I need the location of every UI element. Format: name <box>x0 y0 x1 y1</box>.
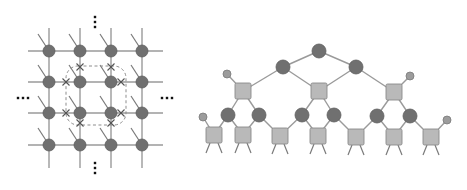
physical-leg <box>423 145 427 155</box>
physical-leg <box>398 145 402 155</box>
small-tensor-node <box>406 72 414 80</box>
circle-tensor-node <box>349 60 363 74</box>
physical-leg <box>435 145 439 155</box>
circle-tensor-node <box>252 108 266 122</box>
square-tensor-node <box>386 84 402 100</box>
square-tensor-node <box>310 128 326 144</box>
square-tensor-node <box>423 129 439 145</box>
tree-network-diagram <box>0 0 467 190</box>
circle-tensor-node <box>312 44 326 58</box>
physical-leg <box>247 143 251 153</box>
physical-leg <box>310 144 314 154</box>
physical-leg <box>272 144 276 154</box>
tree-physical-legs <box>206 143 439 155</box>
square-tensor-node <box>235 127 251 143</box>
square-tensor-node <box>206 127 222 143</box>
figure <box>0 0 467 190</box>
physical-leg <box>235 143 239 153</box>
circle-tensor-node <box>295 108 309 122</box>
physical-leg <box>218 143 222 153</box>
small-tensor-node <box>199 113 207 121</box>
small-tensor-node <box>443 116 451 124</box>
circle-tensor-node <box>370 109 384 123</box>
circle-tensor-node <box>221 108 235 122</box>
physical-leg <box>348 145 352 155</box>
physical-leg <box>322 144 326 154</box>
small-tensor-node <box>223 70 231 78</box>
square-tensor-node <box>386 129 402 145</box>
circle-tensor-node <box>327 108 341 122</box>
physical-leg <box>206 143 210 153</box>
circle-tensor-node <box>403 109 417 123</box>
square-tensor-node <box>311 83 327 99</box>
square-tensor-node <box>272 128 288 144</box>
square-tensor-node <box>235 83 251 99</box>
physical-leg <box>360 145 364 155</box>
physical-leg <box>284 144 288 154</box>
square-tensor-node <box>348 129 364 145</box>
physical-leg <box>386 145 390 155</box>
circle-tensor-node <box>276 60 290 74</box>
